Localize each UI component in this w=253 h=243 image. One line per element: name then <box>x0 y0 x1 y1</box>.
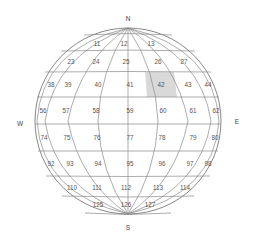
grid-cell-96[interactable]: 96 <box>158 160 166 167</box>
grid-cell-126[interactable]: 126 <box>121 201 132 208</box>
grid-cell-23[interactable]: 23 <box>67 58 75 65</box>
compass-south: S <box>126 224 131 231</box>
grid-cell-94[interactable]: 94 <box>94 160 102 167</box>
grid-cell-74[interactable]: 74 <box>40 134 48 141</box>
grid-cell-127[interactable]: 127 <box>145 201 156 208</box>
grid-cell-111[interactable]: 111 <box>92 184 102 191</box>
compass-east: E <box>235 118 240 125</box>
grid-cell-77[interactable]: 77 <box>126 134 134 141</box>
grid-cell-95[interactable]: 95 <box>126 160 134 167</box>
grid-cell-78[interactable]: 78 <box>158 134 166 141</box>
grid-cell-61[interactable]: 61 <box>189 107 197 114</box>
grid-cell-39[interactable]: 39 <box>64 81 72 88</box>
grid-cell-98[interactable]: 98 <box>204 160 212 167</box>
compass-north: N <box>126 15 131 22</box>
grid-cell-44[interactable]: 44 <box>204 81 212 88</box>
grid-cell-12[interactable]: 12 <box>120 40 128 47</box>
grid-cell-13[interactable]: 13 <box>147 40 155 47</box>
grid-cell-60[interactable]: 60 <box>159 107 167 114</box>
grid-cell-24[interactable]: 24 <box>92 58 100 65</box>
grid-cell-25[interactable]: 25 <box>122 58 130 65</box>
grid-cell-26[interactable]: 26 <box>154 58 162 65</box>
grid-cell-58[interactable]: 58 <box>92 107 100 114</box>
grid-cell-79[interactable]: 79 <box>189 134 197 141</box>
grid-cell-75[interactable]: 75 <box>63 134 71 141</box>
globe-grid: N S W E 11121323242526273839404142434456… <box>0 0 253 243</box>
grid-cell-11[interactable]: 11 <box>94 40 101 47</box>
grid-cell-76[interactable]: 76 <box>93 134 101 141</box>
grid-cell-110[interactable]: 110 <box>67 184 78 191</box>
grid-cell-112[interactable]: 112 <box>121 184 132 191</box>
grid-cell-97[interactable]: 97 <box>186 160 194 167</box>
grid-cell-40[interactable]: 40 <box>94 81 102 88</box>
grid-cell-41[interactable]: 41 <box>126 81 134 88</box>
grid-cell-80[interactable]: 80 <box>211 134 219 141</box>
grid-cell-57[interactable]: 57 <box>62 107 70 114</box>
grid-cell-42[interactable]: 42 <box>157 81 165 88</box>
compass-west: W <box>17 120 24 127</box>
grid-cell-38[interactable]: 38 <box>47 81 55 88</box>
grid-cell-62[interactable]: 62 <box>212 107 220 114</box>
grid-cell-125[interactable]: 125 <box>93 201 104 208</box>
grid-cell-56[interactable]: 56 <box>39 107 47 114</box>
grid-cell-114[interactable]: 114 <box>180 184 191 191</box>
grid-cell-93[interactable]: 93 <box>66 160 74 167</box>
grid-cell-43[interactable]: 43 <box>184 81 192 88</box>
grid-cell-92[interactable]: 92 <box>47 160 55 167</box>
grid-cell-59[interactable]: 59 <box>126 107 134 114</box>
grid-cell-113[interactable]: 113 <box>153 184 164 191</box>
grid-cell-27[interactable]: 27 <box>180 58 188 65</box>
